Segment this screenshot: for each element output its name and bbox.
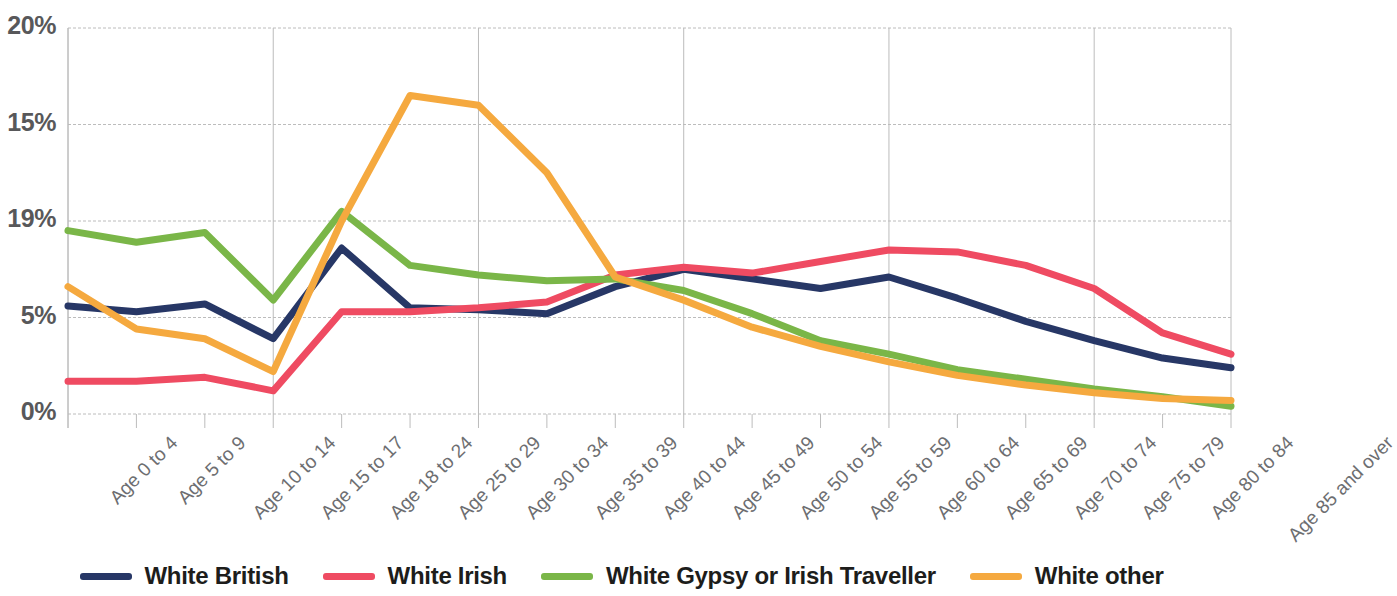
legend-color-swatch-icon [970, 573, 1022, 580]
legend-item[interactable]: White Irish [323, 562, 507, 590]
x-axis-tick-label: Age 0 to 4 [105, 432, 182, 509]
legend-color-swatch-icon [541, 573, 593, 580]
legend-item[interactable]: White Gypsy or Irish Traveller [541, 562, 936, 590]
chart-legend: White BritishWhite IrishWhite Gypsy or I… [0, 556, 1243, 596]
x-axis-tick-labels: Age 0 to 4Age 5 to 9Age 10 to 14Age 15 t… [0, 0, 1243, 560]
legend-color-swatch-icon [323, 573, 375, 580]
legend-color-swatch-icon [80, 573, 132, 580]
legend-item[interactable]: White other [970, 562, 1164, 590]
legend-label: White British [145, 562, 289, 590]
legend-label: White Irish [388, 562, 507, 590]
x-axis-tick-label: Age 5 to 9 [174, 432, 251, 509]
x-axis-tick-label: Age 85 and over [1284, 432, 1397, 546]
legend-label: White other [1035, 562, 1164, 590]
legend-label: White Gypsy or Irish Traveller [606, 562, 936, 590]
legend-item[interactable]: White British [80, 562, 289, 590]
